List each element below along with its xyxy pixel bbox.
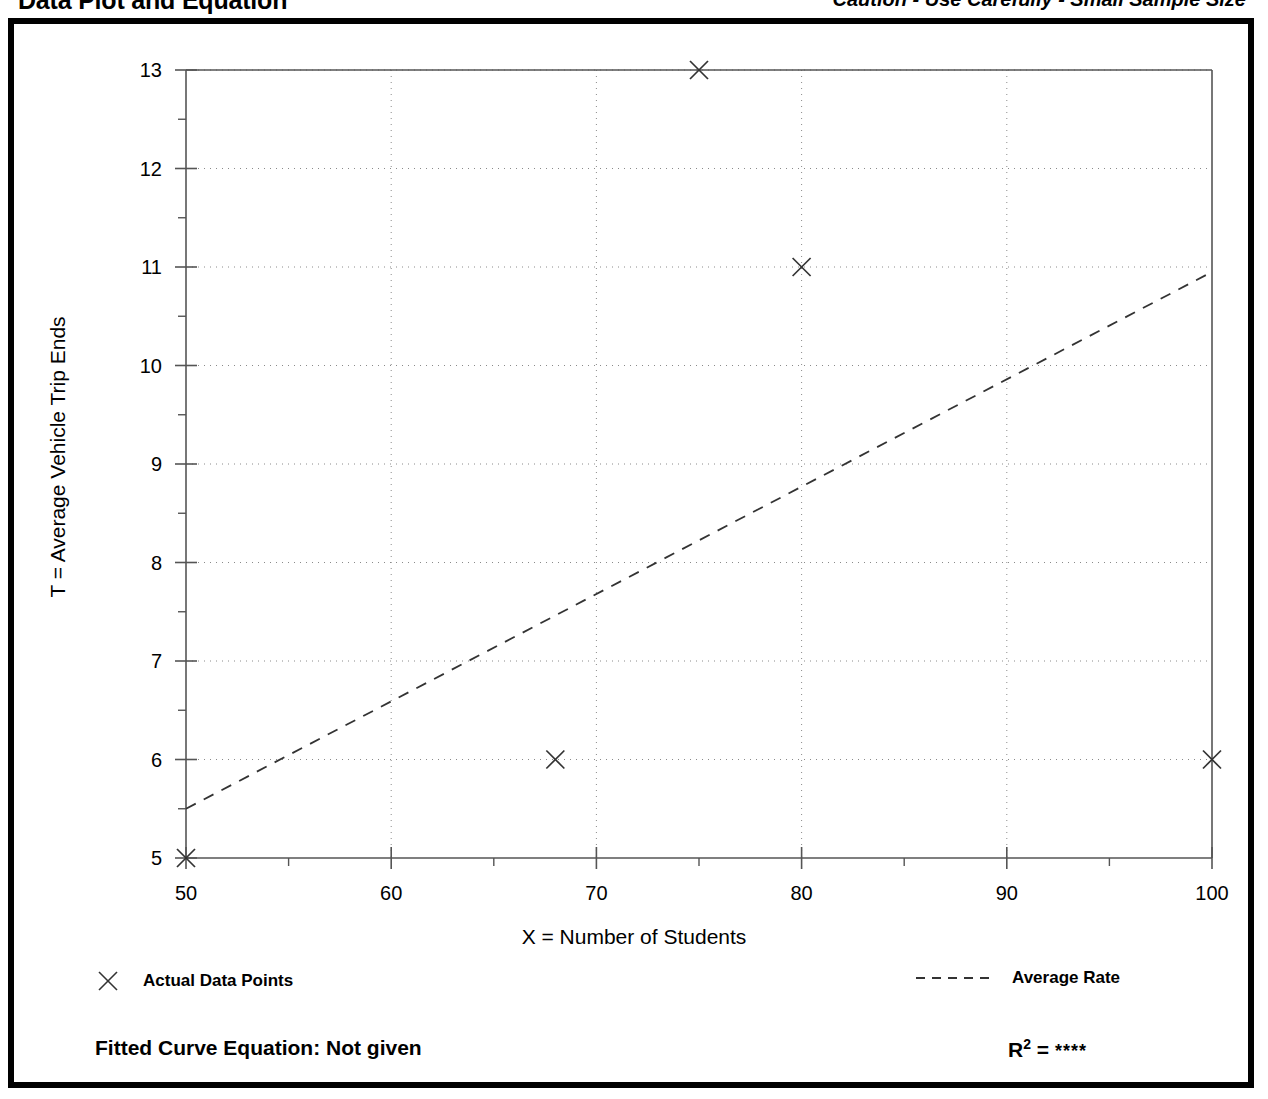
svg-text:100: 100 <box>1195 882 1228 904</box>
svg-text:11: 11 <box>141 256 162 278</box>
svg-text:5: 5 <box>151 847 162 869</box>
chart-container: 56789101112135060708090100 T = Average V… <box>0 0 1268 1099</box>
svg-text:9: 9 <box>151 453 162 475</box>
x-axis-title: X = Number of Students <box>0 925 1268 949</box>
svg-text:6: 6 <box>151 749 162 771</box>
chart-legend: Actual Data Points Average Rate <box>0 968 1268 1008</box>
svg-text:50: 50 <box>175 882 197 904</box>
equation-row: Fitted Curve Equation: Not given R2 = **… <box>0 1036 1268 1080</box>
legend-label-actual-data-points: Actual Data Points <box>143 971 293 991</box>
r-squared-exponent: 2 <box>1023 1036 1031 1052</box>
legend-item-actual-data-points: Actual Data Points <box>95 968 293 994</box>
svg-text:12: 12 <box>140 158 162 180</box>
svg-text:80: 80 <box>790 882 812 904</box>
svg-text:8: 8 <box>151 552 162 574</box>
r-squared-value: **** <box>1055 1041 1087 1061</box>
svg-text:90: 90 <box>996 882 1018 904</box>
x-marker-icon <box>95 968 121 994</box>
svg-text:70: 70 <box>585 882 607 904</box>
dashed-line-icon <box>916 970 990 986</box>
svg-text:60: 60 <box>380 882 402 904</box>
svg-text:10: 10 <box>140 355 162 377</box>
r-squared-block: R2 = **** <box>1008 1036 1087 1062</box>
y-axis-title: T = Average Vehicle Trip Ends <box>46 307 70 607</box>
svg-text:13: 13 <box>140 59 162 81</box>
r-squared-symbol: R <box>1008 1038 1023 1061</box>
fitted-curve-equation: Fitted Curve Equation: Not given <box>95 1036 422 1060</box>
r-squared-equals: = <box>1031 1038 1055 1061</box>
svg-text:7: 7 <box>151 650 162 672</box>
legend-label-average-rate: Average Rate <box>1012 968 1120 988</box>
legend-item-average-rate: Average Rate <box>916 968 1120 988</box>
